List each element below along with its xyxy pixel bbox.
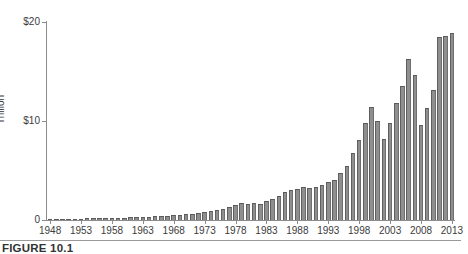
x-tick-label: 1963	[126, 225, 160, 236]
bar	[48, 219, 53, 220]
x-axis-line	[46, 220, 455, 221]
bar	[85, 218, 90, 220]
bar	[184, 214, 189, 220]
bar	[345, 166, 350, 220]
bar	[307, 188, 312, 220]
y-axis-title: Trillion	[0, 86, 6, 134]
x-tick-label: 1973	[188, 225, 222, 236]
bar	[425, 108, 430, 220]
y-tick-mark	[42, 220, 47, 221]
x-tick-mark	[50, 221, 51, 224]
x-tick-label: 1968	[157, 225, 191, 236]
figure-caption: FIGURE 10.1	[2, 242, 73, 254]
x-tick-label: 1953	[64, 225, 98, 236]
bar	[320, 185, 325, 220]
bar	[128, 217, 133, 220]
bar	[332, 180, 337, 220]
bar	[246, 204, 251, 220]
x-tick-label: 1988	[280, 225, 314, 236]
bar	[116, 218, 121, 220]
x-tick-mark	[328, 221, 329, 224]
x-tick-label: 2013	[435, 225, 468, 236]
x-tick-label: 1983	[249, 225, 283, 236]
bar	[196, 213, 201, 220]
bar	[338, 173, 343, 220]
bar	[443, 36, 448, 220]
x-tick-label: 1998	[342, 225, 376, 236]
bar	[289, 190, 294, 220]
x-tick-label: 1958	[95, 225, 129, 236]
x-tick-mark	[266, 221, 267, 224]
bar	[431, 90, 436, 220]
bar	[66, 219, 71, 220]
bar	[221, 209, 226, 220]
bar	[326, 182, 331, 220]
bar	[178, 215, 183, 220]
bar	[394, 103, 399, 220]
bar	[190, 214, 195, 220]
x-tick-mark	[112, 221, 113, 224]
bar	[227, 207, 232, 220]
bar	[400, 86, 405, 220]
bar	[54, 219, 59, 220]
y-tick-label: $10	[23, 116, 40, 126]
bar	[264, 201, 269, 220]
bar	[171, 215, 176, 220]
bar	[351, 153, 356, 220]
x-tick-mark	[359, 221, 360, 224]
y-tick-label: $20	[23, 17, 40, 27]
x-tick-label: 2008	[404, 225, 438, 236]
x-tick-mark	[236, 221, 237, 224]
bar	[209, 211, 214, 220]
y-tick-label: 0	[34, 215, 40, 225]
bar	[295, 189, 300, 220]
bar	[252, 203, 257, 220]
bar	[258, 204, 263, 220]
bar	[413, 75, 418, 220]
bar	[73, 219, 78, 220]
caption-divider	[0, 240, 461, 241]
bar	[215, 210, 220, 220]
bar	[369, 107, 374, 220]
bar	[363, 123, 368, 220]
bar	[283, 192, 288, 220]
bar	[375, 121, 380, 220]
bar	[159, 216, 164, 220]
bar	[97, 218, 102, 220]
x-tick-mark	[297, 221, 298, 224]
bar	[382, 139, 387, 220]
x-tick-mark	[81, 221, 82, 224]
bar	[122, 218, 127, 220]
bar-series	[47, 22, 455, 220]
bar	[134, 217, 139, 220]
bar	[277, 196, 282, 220]
x-tick-mark	[452, 221, 453, 224]
x-tick-label: 1978	[219, 225, 253, 236]
bar	[314, 187, 319, 220]
bar	[202, 212, 207, 220]
bar	[141, 217, 146, 220]
bar	[147, 217, 152, 220]
x-tick-label: 1993	[311, 225, 345, 236]
x-tick-mark	[390, 221, 391, 224]
bar	[437, 37, 442, 220]
bar	[301, 187, 306, 220]
x-tick-mark	[421, 221, 422, 224]
bar	[60, 219, 65, 220]
bar	[233, 205, 238, 220]
x-tick-mark	[205, 221, 206, 224]
bar	[270, 199, 275, 220]
bar	[239, 203, 244, 220]
x-tick-label: 1948	[33, 225, 67, 236]
bar	[406, 59, 411, 220]
x-tick-mark	[174, 221, 175, 224]
x-tick-label: 2003	[373, 225, 407, 236]
bar	[103, 218, 108, 220]
x-tick-mark	[143, 221, 144, 224]
bar	[79, 219, 84, 220]
bar	[165, 216, 170, 220]
plot-area	[47, 22, 455, 220]
bar	[388, 123, 393, 220]
bar	[110, 218, 115, 220]
